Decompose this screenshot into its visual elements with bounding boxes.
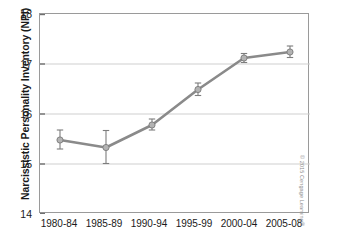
chart-canvas bbox=[40, 14, 310, 214]
data-point-marker bbox=[57, 137, 63, 143]
y-axis-title: Narcissistic Personality Inventory (NPI) bbox=[19, 0, 31, 209]
y-tick-label: 18 bbox=[2, 9, 32, 20]
plot-area bbox=[39, 13, 309, 213]
y-tick-marks bbox=[40, 15, 45, 214]
data-point-marker bbox=[241, 55, 247, 61]
data-point-marker bbox=[287, 49, 293, 55]
y-tick-label: 15 bbox=[2, 159, 32, 170]
data-point-marker bbox=[195, 86, 201, 92]
y-tick-label: 14 bbox=[2, 209, 32, 220]
y-tick-label: 16 bbox=[2, 109, 32, 120]
data-point-marker bbox=[149, 122, 155, 128]
data-point-marker bbox=[103, 144, 109, 150]
y-tick-label: 17 bbox=[2, 59, 32, 70]
chart-figure: Narcissistic Personality Inventory (NPI)… bbox=[0, 0, 343, 242]
copyright-credit: © 2015 Cengage Learning® bbox=[299, 155, 305, 241]
gridlines bbox=[40, 64, 310, 164]
data-line bbox=[60, 52, 290, 148]
